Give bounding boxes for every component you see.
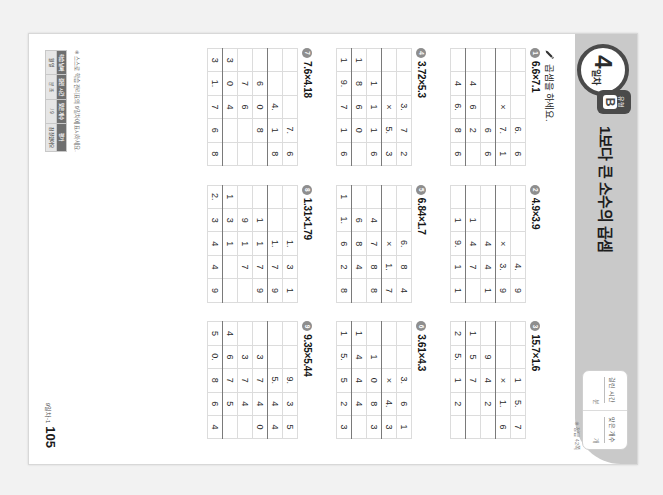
calc-cell[interactable]: [397, 185, 412, 208]
calc-cell[interactable]: [238, 185, 253, 208]
calc-cell[interactable]: 3: [223, 49, 238, 72]
calc-cell[interactable]: [238, 142, 253, 165]
calc-cell[interactable]: 1.: [268, 232, 283, 255]
calc-cell[interactable]: 3: [238, 345, 253, 368]
calc-cell[interactable]: [382, 185, 397, 208]
calc-cell[interactable]: 8: [367, 279, 382, 302]
calc-cell[interactable]: 2: [451, 322, 466, 345]
vertical-calculation-grid[interactable]: 4.9×3.944114719.11: [450, 185, 526, 303]
calc-cell[interactable]: 4: [208, 415, 223, 438]
calc-cell[interactable]: 1: [238, 232, 253, 255]
calc-cell[interactable]: [511, 322, 526, 345]
calc-cell[interactable]: 4.: [382, 392, 397, 415]
calc-cell[interactable]: 7: [238, 369, 253, 392]
calc-cell[interactable]: 8: [451, 119, 466, 142]
calc-cell[interactable]: 3: [253, 345, 268, 368]
calc-cell[interactable]: [511, 345, 526, 368]
calc-cell[interactable]: 8: [352, 72, 367, 95]
calc-cell[interactable]: [223, 415, 238, 438]
calc-cell[interactable]: 4: [397, 279, 412, 302]
calc-cell[interactable]: [481, 72, 496, 95]
calc-cell[interactable]: 3: [382, 415, 397, 438]
calc-cell[interactable]: 5: [223, 392, 238, 415]
calc-cell[interactable]: 3: [382, 142, 397, 165]
calc-cell[interactable]: 3: [367, 415, 382, 438]
calc-cell[interactable]: 1: [337, 185, 352, 208]
calc-cell[interactable]: [367, 185, 382, 208]
calc-cell[interactable]: [382, 322, 397, 345]
calc-cell[interactable]: 1: [253, 232, 268, 255]
calc-cell[interactable]: 4: [481, 255, 496, 278]
calc-cell[interactable]: 1: [397, 415, 412, 438]
calc-cell[interactable]: [397, 49, 412, 72]
calc-cell[interactable]: [382, 209, 397, 232]
calc-cell[interactable]: 9: [208, 279, 223, 302]
multiply-operator-cell[interactable]: ×: [382, 95, 397, 118]
calc-cell[interactable]: 1: [367, 345, 382, 368]
calc-cell[interactable]: [481, 415, 496, 438]
calc-cell[interactable]: [481, 49, 496, 72]
calc-cell[interactable]: 3.: [397, 95, 412, 118]
calc-cell[interactable]: 5: [283, 415, 298, 438]
calc-cell[interactable]: 6: [511, 142, 526, 165]
calc-cell[interactable]: 9.: [451, 232, 466, 255]
calc-cell[interactable]: 3: [208, 49, 223, 72]
calc-cell[interactable]: 1: [223, 185, 238, 208]
calc-cell[interactable]: [466, 185, 481, 208]
calc-cell[interactable]: 5.: [511, 392, 526, 415]
calc-cell[interactable]: 4: [481, 232, 496, 255]
calc-cell[interactable]: [223, 142, 238, 165]
calc-cell[interactable]: [253, 142, 268, 165]
calc-cell[interactable]: [238, 49, 253, 72]
calc-cell[interactable]: [268, 49, 283, 72]
vertical-calculation-grid[interactable]: 3.61×4.31083144415.523: [336, 321, 412, 439]
calc-cell[interactable]: 2: [337, 392, 352, 415]
calc-cell[interactable]: 7.: [496, 119, 511, 142]
calc-cell[interactable]: 5: [208, 322, 223, 345]
calc-cell[interactable]: 1: [367, 72, 382, 95]
calc-cell[interactable]: 9.: [337, 72, 352, 95]
multiply-operator-cell[interactable]: ×: [382, 369, 397, 392]
calc-cell[interactable]: 0: [223, 72, 238, 95]
calc-cell[interactable]: [283, 185, 298, 208]
calc-cell[interactable]: 8: [208, 142, 223, 165]
calc-cell[interactable]: 6: [481, 119, 496, 142]
calc-cell[interactable]: 8: [397, 255, 412, 278]
calc-cell[interactable]: [397, 209, 412, 232]
calc-cell[interactable]: [238, 119, 253, 142]
multiply-operator-cell[interactable]: ×: [496, 232, 511, 255]
calc-cell[interactable]: 1: [352, 322, 367, 345]
calc-cell[interactable]: 4: [253, 392, 268, 415]
calc-cell[interactable]: 6: [253, 72, 268, 95]
calc-cell[interactable]: 1: [367, 95, 382, 118]
multiply-operator-cell[interactable]: ×: [496, 369, 511, 392]
vertical-calculation-grid[interactable]: 9.355.443740374467550.864: [207, 321, 298, 439]
calc-cell[interactable]: 1: [496, 142, 511, 165]
calc-cell[interactable]: 5.: [268, 369, 283, 392]
calc-cell[interactable]: [397, 322, 412, 345]
calc-cell[interactable]: 1.: [337, 209, 352, 232]
calc-cell[interactable]: 4: [223, 95, 238, 118]
calc-cell[interactable]: [496, 49, 511, 72]
calc-cell[interactable]: 9: [511, 279, 526, 302]
eval-value-cell[interactable]: 월 일: [46, 51, 57, 75]
calc-cell[interactable]: [253, 49, 268, 72]
calc-cell[interactable]: 9.: [283, 369, 298, 392]
calc-cell[interactable]: 8: [337, 279, 352, 302]
calc-cell[interactable]: [223, 119, 238, 142]
calc-cell[interactable]: 0: [367, 369, 382, 392]
calc-cell[interactable]: 7: [208, 95, 223, 118]
calc-cell[interactable]: 0: [352, 119, 367, 142]
calc-cell[interactable]: 3: [283, 255, 298, 278]
calc-cell[interactable]: 2.: [208, 185, 223, 208]
calc-cell[interactable]: 1: [283, 279, 298, 302]
calc-cell[interactable]: 5: [466, 345, 481, 368]
calc-cell[interactable]: [223, 255, 238, 278]
eval-value-cell[interactable]: 참 잘했어요: [46, 123, 57, 151]
calc-cell[interactable]: [268, 185, 283, 208]
calc-cell[interactable]: [367, 49, 382, 72]
calc-cell[interactable]: 4: [352, 345, 367, 368]
multiply-operator-cell[interactable]: ×: [496, 95, 511, 118]
calc-cell[interactable]: 6: [397, 392, 412, 415]
calc-cell[interactable]: 2: [481, 392, 496, 415]
